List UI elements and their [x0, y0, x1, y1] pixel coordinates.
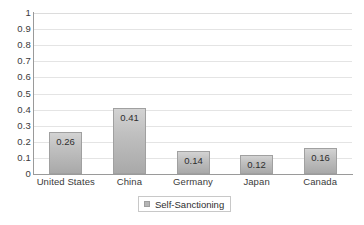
- bar: 0.16: [304, 148, 337, 174]
- bar: 0.26: [49, 132, 82, 174]
- bar-value-label: 0.12: [241, 159, 272, 170]
- bar-chart: 00.10.20.30.40.50.60.70.80.91 0.26United…: [0, 0, 364, 225]
- bar-value-label: 0.41: [114, 112, 145, 123]
- chart-legend: Self-Sanctioning: [138, 196, 231, 212]
- x-axis-category-label: Japan: [225, 176, 289, 188]
- legend-swatch-icon: [144, 201, 150, 207]
- bar: 0.14: [177, 151, 210, 174]
- x-axis-category-label: China: [98, 176, 162, 188]
- x-axis-category-label: Germany: [161, 176, 225, 188]
- bar-value-label: 0.16: [305, 152, 336, 163]
- bar-value-label: 0.26: [50, 136, 81, 147]
- x-axis-category-label: Canada: [288, 176, 352, 188]
- legend-label: Self-Sanctioning: [155, 199, 224, 210]
- bar: 0.12: [240, 155, 273, 174]
- x-axis-category-label: United States: [34, 176, 98, 188]
- bar: 0.41: [113, 108, 146, 174]
- bars-layer: 0.26United States0.41China0.14Germany0.1…: [0, 0, 364, 225]
- bar-value-label: 0.14: [178, 155, 209, 166]
